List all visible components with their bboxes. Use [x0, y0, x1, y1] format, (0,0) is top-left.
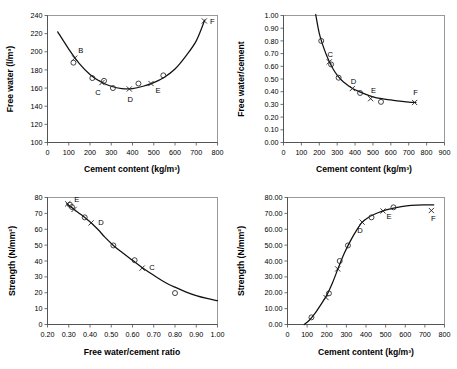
y-tick-label: 160: [31, 84, 43, 93]
y-tick-label: 120: [31, 120, 43, 129]
data-point-circle: [71, 60, 76, 65]
x-ticks-bottom-right: 0100200300400500600700800: [286, 325, 451, 339]
x-tick-label: 200: [84, 148, 96, 157]
y-tick-label: 0.50: [265, 75, 279, 84]
x-tick-label: 700: [403, 148, 415, 157]
x-tick-label: 800: [212, 148, 224, 157]
x-tick-label: 600: [169, 148, 181, 157]
y-axis-title: Free water/cement: [236, 41, 246, 117]
x-tick-label: 300: [331, 148, 343, 157]
chart-water-cement-ratio-vs-cement: 0.000.100.200.300.400.500.600.700.800.90…: [229, 0, 457, 185]
data-point-cross: [350, 86, 355, 91]
x-tick-label: 0.30: [62, 330, 76, 339]
y-tick-label: 80.00: [265, 193, 283, 202]
point-labels-bottom-left: EDC: [74, 195, 155, 272]
x-tick-label: 0.60: [126, 330, 140, 339]
mix-label-f: F: [431, 214, 436, 223]
panel-bottom-right: 0.0010.0020.0030.0040.0050.0060.0070.008…: [229, 185, 457, 369]
mix-label-e: E: [387, 212, 392, 221]
y-tick-label: 40: [35, 257, 43, 266]
x-tick-label: 500: [367, 148, 379, 157]
x-tick-label: 200: [313, 148, 325, 157]
point-labels-top-left: BCDEF: [78, 17, 215, 104]
y-tick-label: 30.00: [265, 272, 283, 281]
y-tick-label: 1.00: [265, 11, 279, 20]
x-ticks-bottom-left: 0.200.300.400.500.600.700.800.901.00: [41, 325, 225, 339]
y-tick-label: 50.00: [265, 241, 283, 250]
y-axis-title: Strength (N/mm²): [7, 226, 17, 296]
y-tick-label: 70.00: [265, 209, 283, 218]
x-tick-label: 0: [46, 148, 50, 157]
y-tick-label: 10: [35, 304, 43, 313]
y-tick-label: 10.00: [265, 304, 283, 313]
mix-label-e: E: [155, 86, 160, 95]
x-tick-label: 400: [360, 330, 372, 339]
mix-label-c: C: [149, 263, 155, 272]
x-ticks-top-right: 0100200300400500600700800900: [282, 143, 451, 157]
x-tick-label: 400: [349, 148, 361, 157]
y-tick-label: 0.00: [269, 320, 283, 329]
mix-label-f: F: [210, 17, 215, 26]
mix-label-d: D: [351, 77, 357, 86]
panel-top-right: 0.000.100.200.300.400.500.600.700.800.90…: [229, 0, 457, 185]
x-tick-label: 900: [439, 148, 451, 157]
x-ticks-top-left: 0100200300400500600700800: [46, 143, 224, 157]
x-tick-label: 600: [385, 148, 397, 157]
y-tick-label: 140: [31, 102, 43, 111]
x-tick-label: 100: [63, 148, 75, 157]
y-ticks-bottom-right: 0.0010.0020.0030.0040.0050.0060.0070.008…: [265, 193, 288, 329]
point-labels-bottom-right: DEF: [357, 212, 436, 235]
y-tick-label: 100: [31, 138, 43, 147]
panel-bottom-left: 01020304050607080 0.200.300.400.500.600.…: [0, 185, 229, 369]
x-tick-label: 600: [399, 330, 411, 339]
y-axis-title: Strength (N/mm²): [236, 226, 246, 296]
y-tick-label: 0.00: [265, 138, 279, 147]
curve-bottom-right: [304, 205, 434, 325]
mix-label-e: E: [371, 86, 376, 95]
y-tick-label: 0.60: [265, 62, 279, 71]
y-tick-label: 0.40: [265, 87, 279, 96]
data-markers-bottom-right: [309, 205, 434, 320]
y-tick-label: 20.00: [265, 288, 283, 297]
mix-label-f: F: [413, 88, 418, 97]
curve-bottom-left: [67, 204, 218, 301]
point-labels-top-right: CDEF: [328, 50, 419, 98]
x-tick-label: 0.40: [83, 330, 97, 339]
data-point-cross: [359, 220, 364, 225]
figure-four-panel-concrete-mix-charts: 100120140160180200220240 010020030040050…: [0, 0, 457, 369]
data-point-circle: [378, 99, 383, 104]
panel-top-left: 100120140160180200220240 010020030040050…: [0, 0, 229, 185]
x-tick-label: 400: [127, 148, 139, 157]
x-tick-label: 700: [419, 330, 431, 339]
y-ticks-bottom-left: 01020304050607080: [35, 193, 48, 329]
x-axis-title: Cement content (kg/m³): [316, 164, 412, 174]
y-tick-label: 0.80: [265, 37, 279, 46]
y-tick-label: 240: [31, 11, 43, 20]
plot-frame-bottom-right: [288, 198, 445, 325]
y-tick-label: 0.20: [265, 113, 279, 122]
y-ticks-top-right: 0.000.100.200.300.400.500.600.700.800.90…: [265, 11, 284, 147]
mix-label-d: D: [357, 226, 363, 235]
x-tick-label: 1.00: [211, 330, 225, 339]
x-tick-label: 0.90: [189, 330, 203, 339]
x-tick-label: 700: [190, 148, 202, 157]
y-tick-label: 0: [39, 320, 43, 329]
mix-label-d: D: [128, 95, 134, 104]
y-tick-label: 0.90: [265, 24, 279, 33]
mix-label-c: C: [95, 88, 101, 97]
data-point-circle: [173, 291, 178, 296]
x-tick-label: 300: [340, 330, 352, 339]
x-tick-label: 0: [286, 330, 290, 339]
data-point-circle: [136, 81, 141, 86]
y-tick-label: 40.00: [265, 257, 283, 266]
x-tick-label: 100: [301, 330, 313, 339]
x-tick-label: 100: [295, 148, 307, 157]
y-tick-label: 50: [35, 241, 43, 250]
chart-strength-vs-cement-content: 0.0010.0020.0030.0040.0050.0060.0070.008…: [229, 185, 457, 369]
x-axis-title: Free water/cement ratio: [84, 347, 180, 357]
x-tick-label: 500: [148, 148, 160, 157]
x-tick-label: 0.50: [104, 330, 118, 339]
mix-label-e: E: [74, 195, 79, 204]
y-axis-title: Free water (l/m³): [5, 46, 15, 113]
x-tick-label: 800: [439, 330, 451, 339]
